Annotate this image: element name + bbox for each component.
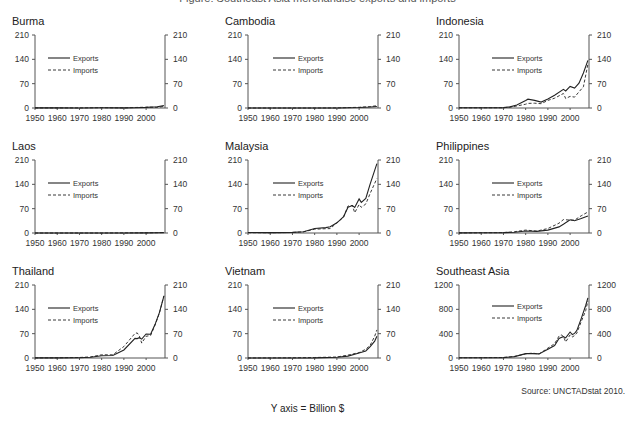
x-tick-label: 1990 [114,113,133,123]
x-tick-label: 1980 [305,363,324,373]
y-tick-label-left: 0 [24,228,29,238]
y-tick-label-right: 140 [386,54,400,64]
exports-line [35,106,164,108]
legend-imports: Imports [73,316,98,325]
y-tick-label-right: 0 [386,103,391,113]
x-tick-label: 1990 [327,113,346,123]
y-tick-label-right: 0 [386,228,391,238]
line-chart: 0040040080080012001200195019601970198019… [424,265,635,387]
y-tick-label-right: 70 [173,329,183,339]
x-tick-label: 1990 [114,238,133,248]
chart-panel-philippines: Philippines00707014014021021019501960197… [424,140,635,262]
exports-line [248,107,377,109]
source-note: Source: UNCTADstat 2010. [521,386,625,396]
x-tick-label: 2000 [137,238,156,248]
x-tick-label: 1980 [516,238,535,248]
x-tick-label: 1960 [472,363,491,373]
x-tick-label: 2000 [137,363,156,373]
imports-line [459,212,588,233]
line-chart: 0070701401402102101950196019701980199020… [0,265,212,387]
line-chart: 0070701401402102101950196019701980199020… [213,140,425,262]
legend-exports: Exports [517,302,543,311]
line-chart: 0070701401402102101950196019701980199020… [213,15,425,137]
x-tick-label: 1990 [538,363,557,373]
imports-line [35,296,164,358]
y-tick-label-left: 70 [444,204,454,214]
y-tick-label-left: 210 [15,155,29,165]
y-tick-label-left: 400 [439,329,453,339]
y-tick-label-right: 140 [597,54,611,64]
y-tick-label-right: 1200 [597,280,616,290]
x-tick-label: 1990 [538,113,557,123]
legend-imports: Imports [298,66,323,75]
x-tick-label: 1980 [305,113,324,123]
legend-imports: Imports [298,191,323,200]
legend-imports: Imports [517,191,542,200]
x-tick-label: 2000 [350,238,369,248]
y-tick-label-left: 140 [439,179,453,189]
legend-imports: Imports [517,66,542,75]
x-tick-label: 1980 [305,238,324,248]
y-tick-label-right: 0 [386,353,391,363]
x-tick-label: 2000 [137,113,156,123]
y-tick-label-right: 0 [173,228,178,238]
y-tick-label-right: 70 [173,79,183,89]
chart-panel-thailand: Thailand00707014014021021019501960197019… [0,265,212,387]
y-tick-label-left: 140 [439,54,453,64]
x-tick-label: 1980 [92,238,111,248]
x-tick-label: 2000 [561,113,580,123]
y-tick-label-left: 70 [233,204,243,214]
legend-exports: Exports [73,304,99,313]
x-tick-label: 1960 [261,238,280,248]
exports-line [35,296,164,358]
x-tick-label: 2000 [350,363,369,373]
x-tick-label: 1950 [26,238,45,248]
y-tick-label-left: 0 [24,103,29,113]
line-chart: 0070701401402102101950196019701980199020… [0,140,212,262]
x-tick-label: 1980 [92,363,111,373]
y-tick-label-right: 140 [173,54,187,64]
y-tick-label-left: 800 [439,304,453,314]
x-tick-label: 1970 [70,238,89,248]
y-tick-label-left: 0 [237,228,242,238]
y-tick-label-left: 140 [15,179,29,189]
y-tick-label-left: 140 [228,54,242,64]
x-tick-label: 1990 [327,363,346,373]
y-tick-label-right: 210 [173,155,187,165]
x-tick-label: 1990 [538,238,557,248]
y-tick-label-right: 70 [386,79,396,89]
y-tick-label-right: 210 [386,155,400,165]
y-tick-label-left: 70 [20,329,30,339]
y-tick-label-right: 140 [386,304,400,314]
y-tick-label-left: 70 [444,79,454,89]
x-tick-label: 1960 [48,238,67,248]
y-tick-label-left: 70 [20,204,30,214]
y-axis-note-text: Y axis = Billion $ [271,403,344,414]
x-tick-label: 1970 [494,238,513,248]
legend-imports: Imports [517,314,542,323]
chart-panel-malaysia: Malaysia00707014014021021019501960197019… [213,140,425,262]
y-tick-label-right: 70 [597,79,607,89]
chart-panel-vietnam: Vietnam007070140140210210195019601970198… [213,265,425,387]
y-tick-label-right: 140 [173,304,187,314]
legend-exports: Exports [298,54,324,63]
y-tick-label-left: 140 [15,304,29,314]
x-tick-label: 1950 [450,363,469,373]
x-tick-label: 1970 [283,363,302,373]
x-tick-label: 1970 [494,363,513,373]
x-tick-label: 1950 [239,363,258,373]
y-tick-label-left: 0 [237,103,242,113]
x-tick-label: 1950 [450,113,469,123]
x-tick-label: 1970 [70,113,89,123]
chart-panel-indonesia: Indonesia0070701401402102101950196019701… [424,15,635,137]
y-tick-label-left: 70 [233,329,243,339]
y-tick-label-left: 0 [237,353,242,363]
y-axis-note: Y axis = Billion $ [0,403,635,414]
legend-imports: Imports [73,191,98,200]
x-tick-label: 1970 [494,113,513,123]
x-tick-label: 1980 [516,363,535,373]
x-tick-label: 1950 [239,113,258,123]
legend-exports: Exports [517,54,543,63]
y-tick-label-left: 210 [228,280,242,290]
x-tick-label: 2000 [561,238,580,248]
